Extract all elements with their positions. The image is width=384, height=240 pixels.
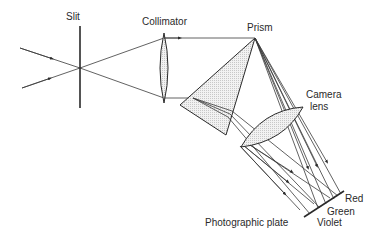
label-slit: Slit [66, 11, 80, 22]
incoming-rays [20, 38, 164, 98]
label-camera: Camera [306, 89, 342, 100]
label-violet: Violet [317, 217, 342, 228]
label-green: Green [327, 206, 355, 217]
spectrograph-diagram: Slit Collimator Prism Camera lens Red Gr… [0, 0, 384, 240]
label-lens: lens [310, 101, 328, 112]
label-collimator: Collimator [142, 16, 188, 27]
label-photographic-plate: Photographic plate [205, 217, 289, 228]
label-red: Red [345, 193, 363, 204]
collimator-lens [160, 33, 168, 103]
camera-lens [241, 107, 303, 147]
label-prism: Prism [247, 22, 273, 33]
